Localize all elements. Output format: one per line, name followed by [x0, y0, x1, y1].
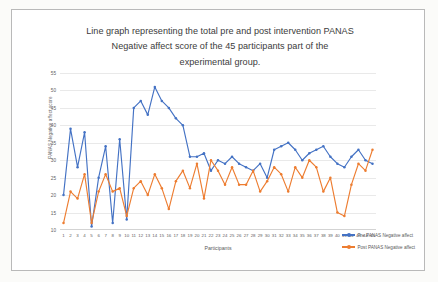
data-point: [161, 187, 164, 190]
x-tick-label: 6: [97, 233, 99, 238]
data-point: [90, 225, 93, 228]
data-point: [252, 169, 255, 172]
data-point: [308, 159, 311, 162]
x-tick-label: 14: [152, 233, 157, 238]
data-point: [336, 211, 339, 214]
x-axis-title: Participants: [60, 245, 376, 251]
x-tick-label: 32: [279, 233, 284, 238]
x-tick-label: 29: [258, 233, 263, 238]
data-point: [125, 218, 128, 221]
data-point: [217, 169, 220, 172]
data-point: [118, 187, 121, 190]
x-tick-label: 31: [272, 233, 277, 238]
data-point: [364, 159, 367, 162]
x-tick-label: 26: [237, 233, 242, 238]
x-tick-label: 17: [173, 233, 178, 238]
data-point: [132, 187, 135, 190]
legend-label: Pre PANAS Negative affect: [358, 233, 414, 238]
data-point: [329, 155, 332, 158]
data-point: [132, 107, 135, 110]
data-point: [308, 152, 311, 155]
data-point: [69, 128, 72, 131]
data-point: [266, 180, 269, 183]
data-point: [90, 222, 93, 225]
data-point: [294, 166, 297, 169]
data-point: [371, 162, 374, 165]
data-point: [217, 159, 220, 162]
data-point: [97, 176, 100, 179]
y-tick-label: 15: [40, 210, 56, 215]
x-tick-label: 20: [194, 233, 199, 238]
data-point: [203, 152, 206, 155]
data-point: [62, 222, 65, 225]
chart-title-line: Line graph representing the total pre an…: [48, 24, 392, 39]
chart-title: Line graph representing the total pre an…: [48, 24, 392, 70]
data-point: [364, 169, 367, 172]
series-pre: [62, 86, 373, 228]
x-tick-label: 37: [314, 233, 319, 238]
x-tick-label: 21: [202, 233, 207, 238]
x-tick-label: 10: [124, 233, 129, 238]
data-point: [182, 124, 185, 127]
data-point: [175, 180, 178, 183]
data-point: [140, 180, 143, 183]
x-tick-label: 2: [69, 233, 71, 238]
data-point: [140, 100, 143, 103]
y-tick-label: 10: [40, 228, 56, 233]
data-point: [161, 100, 164, 103]
chart-title-line: experimental group.: [48, 55, 392, 70]
data-point: [104, 173, 107, 176]
y-tick-label: 20: [40, 193, 56, 198]
data-point: [154, 86, 157, 89]
legend-item[interactable]: Post PANAS Negative affect: [342, 242, 438, 252]
data-point: [280, 173, 283, 176]
y-tick-label: 45: [40, 105, 56, 110]
data-point: [182, 169, 185, 172]
data-point: [259, 190, 262, 193]
data-point: [83, 173, 86, 176]
data-point: [175, 117, 178, 120]
x-tick-label: 22: [209, 233, 214, 238]
x-tick-label: 1: [62, 233, 64, 238]
data-point: [238, 183, 241, 186]
data-point: [315, 166, 318, 169]
y-tick-label: 25: [40, 175, 56, 180]
x-tick-label: 35: [300, 233, 305, 238]
figure-canvas: Line graph representing the total pre an…: [0, 0, 438, 282]
x-tick-label: 9: [118, 233, 120, 238]
x-tick-label: 38: [321, 233, 326, 238]
x-tick-label: 4: [83, 233, 85, 238]
data-point: [238, 162, 241, 165]
data-point: [76, 166, 79, 169]
data-point: [196, 162, 199, 165]
data-point: [224, 183, 227, 186]
x-tick-label: 28: [251, 233, 256, 238]
data-point: [280, 145, 283, 148]
x-tick-label: 12: [138, 233, 143, 238]
plot-area: [60, 73, 376, 230]
data-point: [301, 159, 304, 162]
legend-item[interactable]: Pre PANAS Negative affect: [342, 230, 438, 240]
data-point: [322, 190, 325, 193]
data-point: [273, 166, 276, 169]
data-point: [343, 215, 346, 218]
data-point: [210, 159, 213, 162]
x-tick-label: 15: [159, 233, 164, 238]
x-tick-label: 25: [230, 233, 235, 238]
legend-swatch-icon: [342, 246, 355, 248]
data-point: [245, 166, 248, 169]
data-point: [97, 190, 100, 193]
data-point: [294, 149, 297, 152]
x-tick-label: 5: [90, 233, 92, 238]
data-point: [104, 145, 107, 148]
x-tick-label: 3: [76, 233, 78, 238]
data-point: [118, 138, 121, 141]
data-point: [196, 155, 199, 158]
data-point: [336, 162, 339, 165]
x-tick-label: 27: [244, 233, 249, 238]
data-point: [287, 142, 290, 145]
data-point: [69, 190, 72, 193]
chart-frame: Line graph representing the total pre an…: [11, 9, 425, 271]
data-point: [371, 149, 374, 152]
data-point: [350, 183, 353, 186]
